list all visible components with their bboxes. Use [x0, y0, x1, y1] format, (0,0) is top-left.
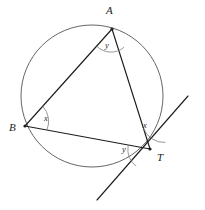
vertex-label-t: T [157, 151, 164, 163]
geometry-figure: A B T y x x y [0, 0, 205, 210]
tangent-line-at-t [97, 96, 188, 200]
vertex-dot-a [110, 27, 113, 30]
segment-ab [25, 29, 112, 126]
vertex-label-b: B [9, 121, 16, 133]
angle-label-at-t-upper: x [142, 120, 147, 130]
angle-label-at-a: y [104, 40, 109, 50]
angle-label-at-t-lower: y [121, 144, 126, 154]
angle-label-at-b: x [43, 113, 48, 123]
vertex-label-a: A [105, 4, 113, 16]
geometry-canvas: A B T y x x y [0, 0, 205, 210]
circumscribed-circle [21, 25, 163, 167]
segment-bt [25, 126, 150, 149]
angle-arc-at-a [96, 46, 124, 52]
vertex-dot-t [148, 147, 151, 150]
vertex-dot-b [23, 124, 26, 127]
